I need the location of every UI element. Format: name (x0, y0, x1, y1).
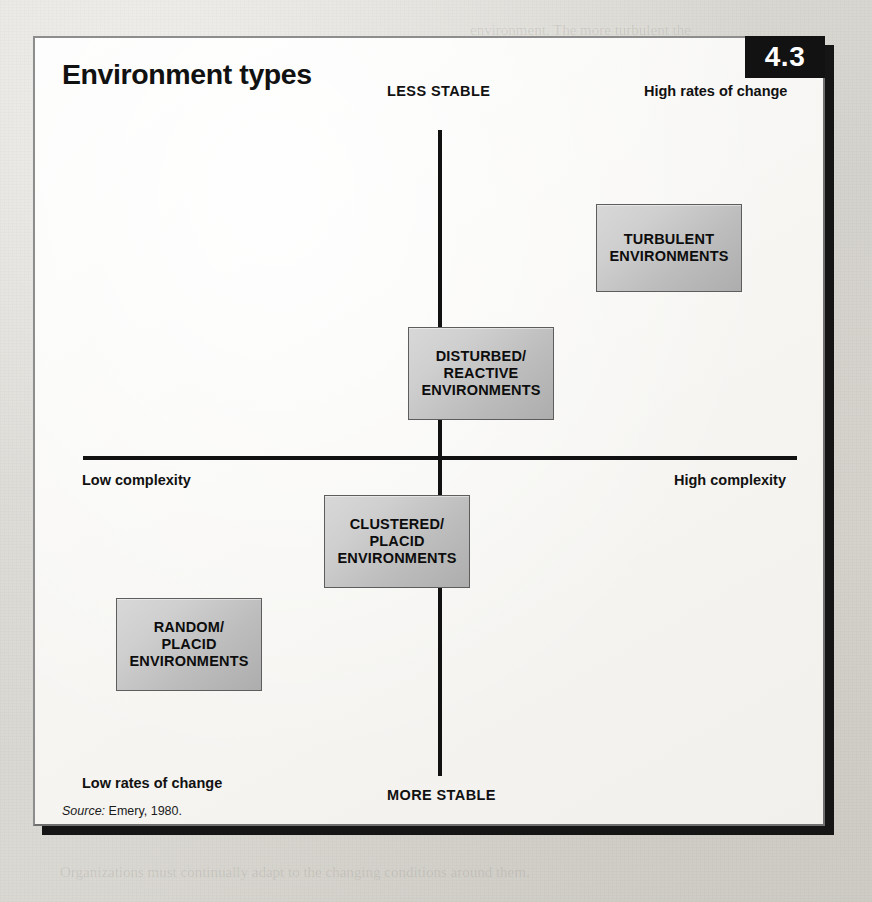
axis-label-more-stable: MORE STABLE (387, 787, 496, 803)
figure-frame: 4.3 Environment types LESS STABLE MORE S… (33, 36, 825, 826)
env-box-line: PLACID (161, 636, 216, 652)
env-box-clustered-placid-label: CLUSTERED/ PLACID ENVIRONMENTS (337, 516, 456, 567)
vertical-axis-line (438, 130, 442, 776)
source-word: Source: (62, 804, 105, 818)
corner-note-low-rates: Low rates of change (82, 775, 222, 791)
env-box-line: TURBULENT (624, 231, 714, 247)
env-box-line: ENVIRONMENTS (609, 248, 728, 264)
corner-note-high-rates: High rates of change (644, 83, 787, 99)
source-citation: Emery, 1980. (105, 804, 182, 818)
env-box-disturbed-reactive-label: DISTURBED/ REACTIVE ENVIRONMENTS (421, 348, 540, 399)
env-box-random-placid[interactable]: RANDOM/ PLACID ENVIRONMENTS (116, 598, 262, 691)
figure-source-note: Source: Emery, 1980. (62, 804, 182, 818)
axis-label-less-stable: LESS STABLE (387, 83, 490, 99)
env-box-turbulent-label: TURBULENT ENVIRONMENTS (609, 231, 728, 265)
env-box-clustered-placid[interactable]: CLUSTERED/ PLACID ENVIRONMENTS (324, 495, 470, 588)
env-box-line: REACTIVE (444, 365, 519, 381)
env-box-disturbed-reactive[interactable]: DISTURBED/ REACTIVE ENVIRONMENTS (408, 327, 554, 420)
figure-number-badge: 4.3 (745, 36, 825, 78)
env-box-line: DISTURBED/ (436, 348, 527, 364)
figure-background (35, 38, 823, 824)
env-box-line: CLUSTERED/ (350, 516, 445, 532)
env-box-line: ENVIRONMENTS (337, 550, 456, 566)
axis-label-high-complexity: High complexity (674, 472, 786, 488)
figure-title: Environment types (62, 58, 312, 91)
axis-label-low-complexity: Low complexity (82, 472, 191, 488)
horizontal-axis-line (83, 456, 797, 460)
env-box-line: PLACID (369, 533, 424, 549)
env-box-turbulent[interactable]: TURBULENT ENVIRONMENTS (596, 204, 742, 292)
env-box-line: RANDOM/ (154, 619, 225, 635)
env-box-line: ENVIRONMENTS (421, 382, 540, 398)
env-box-random-placid-label: RANDOM/ PLACID ENVIRONMENTS (129, 619, 248, 670)
env-box-line: ENVIRONMENTS (129, 653, 248, 669)
